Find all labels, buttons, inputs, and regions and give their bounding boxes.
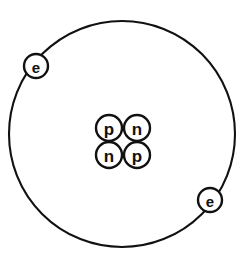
nucleon-label: n [132, 120, 142, 139]
nucleon-label: n [104, 147, 114, 166]
electron-label: e [32, 59, 40, 76]
nucleon-label: p [132, 147, 142, 166]
nucleus-group: p n n p [96, 115, 150, 168]
electron-lower-right: e [198, 188, 222, 212]
nucleon-proton-top-left: p [96, 115, 122, 141]
nucleon-neutron-top-right: n [124, 115, 150, 141]
nucleon-label: p [104, 120, 114, 139]
electron-label: e [206, 193, 214, 210]
nucleon-neutron-bottom-left: n [96, 142, 122, 168]
nucleon-proton-bottom-right: p [124, 142, 150, 168]
atom-diagram-canvas: p n n p e e [0, 0, 252, 274]
electron-upper-left: e [24, 54, 48, 78]
atom-diagram: p n n p e e [0, 0, 252, 274]
